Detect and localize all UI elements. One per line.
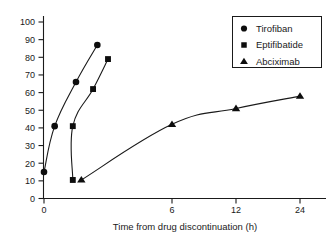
legend-label-tirofiban: Tirofiban bbox=[256, 23, 293, 34]
data-point-tirofiban bbox=[94, 42, 101, 49]
y-axis-tick-label: 30 bbox=[25, 141, 35, 151]
y-axis-tick-label: 100 bbox=[20, 17, 35, 27]
series-tirofiban bbox=[41, 42, 101, 176]
x-axis-tick-labels: 061224 bbox=[41, 205, 305, 215]
series-line-eptifibatide bbox=[71, 59, 108, 180]
y-axis-tick-label: 60 bbox=[25, 88, 35, 98]
data-point-eptifibatide bbox=[70, 123, 76, 129]
x-axis-tick-label: 0 bbox=[41, 205, 46, 215]
legend-marker-eptifibatide bbox=[241, 42, 246, 47]
data-point-eptifibatide bbox=[70, 177, 76, 183]
data-point-tirofiban bbox=[73, 79, 80, 86]
data-point-abciximab bbox=[296, 92, 304, 99]
y-axis-tick-label: 90 bbox=[25, 35, 35, 45]
x-axis-tick-label: 12 bbox=[231, 205, 241, 215]
series-eptifibatide bbox=[70, 56, 111, 183]
data-point-eptifibatide bbox=[105, 56, 111, 62]
legend-marker-abciximab bbox=[240, 58, 248, 64]
legend-marker-tirofiban bbox=[241, 25, 247, 31]
y-axis-tick-labels: 0102030405060708090100 bbox=[20, 17, 35, 204]
chart-container: 0102030405060708090100 061224 Time from … bbox=[0, 0, 330, 239]
series-abciximab bbox=[77, 92, 304, 182]
data-point-tirofiban bbox=[41, 169, 48, 176]
y-axis-tick-label: 0 bbox=[30, 194, 35, 204]
data-point-tirofiban bbox=[51, 123, 58, 130]
x-axis-tick-label: 24 bbox=[295, 205, 305, 215]
y-axis-tick-label: 70 bbox=[25, 70, 35, 80]
y-axis-tick-label: 80 bbox=[25, 53, 35, 63]
x-axis-title: Time from drug discontinuation (h) bbox=[113, 221, 257, 232]
series-line-tirofiban bbox=[44, 45, 97, 172]
data-point-abciximab bbox=[77, 176, 85, 183]
data-point-abciximab bbox=[168, 120, 176, 127]
y-axis-tick-label: 40 bbox=[25, 123, 35, 133]
legend-label-eptifibatide: Eptifibatide bbox=[256, 39, 303, 50]
y-axis-tick-label: 20 bbox=[25, 159, 35, 169]
line-chart: 0102030405060708090100 061224 Time from … bbox=[0, 0, 330, 239]
data-point-eptifibatide bbox=[90, 86, 96, 92]
chart-legend: TirofibanEptifibatideAbciximab bbox=[233, 17, 322, 68]
legend-label-abciximab: Abciximab bbox=[256, 56, 300, 67]
x-axis-tick-label: 6 bbox=[169, 205, 174, 215]
y-axis-tick-label: 10 bbox=[25, 176, 35, 186]
x-axis-tick-marks bbox=[44, 199, 300, 204]
y-axis-tick-label: 50 bbox=[25, 106, 35, 116]
series-line-abciximab bbox=[81, 96, 300, 180]
